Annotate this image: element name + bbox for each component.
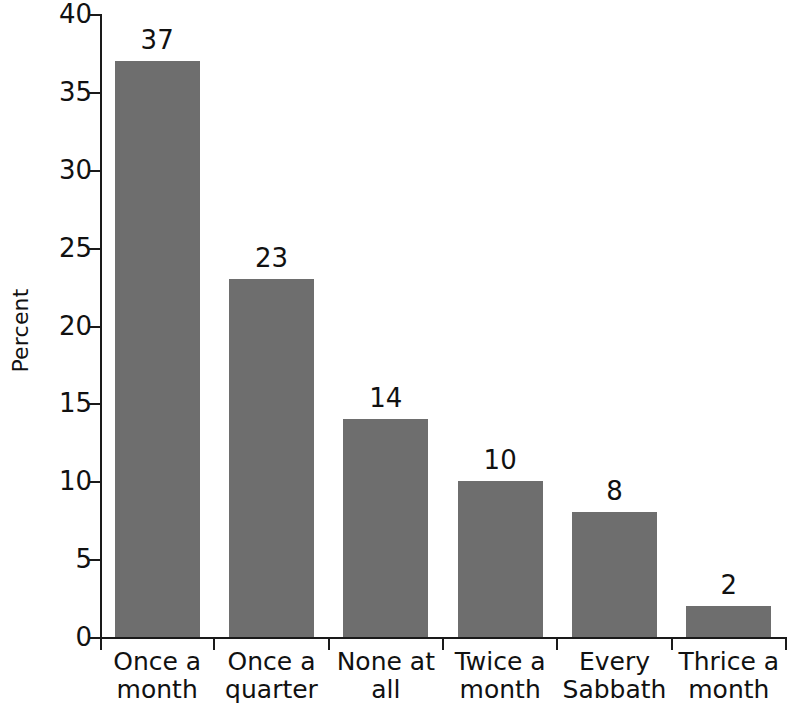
category-label-line: month (672, 676, 786, 704)
y-axis-tick-mark (88, 92, 100, 94)
category-label-line: Twice a (443, 648, 557, 676)
y-axis-tick-mark (88, 637, 100, 639)
y-axis-tick-label: 40 (40, 1, 92, 27)
bar[interactable] (343, 419, 428, 637)
y-axis-tick-mark (88, 170, 100, 172)
bar-value-label: 2 (672, 572, 786, 598)
category-label-line: quarter (214, 676, 328, 704)
x-axis-category-label: Once aquarter (214, 648, 328, 704)
category-label-line: month (100, 676, 214, 704)
category-label-line: Every (557, 648, 671, 676)
y-axis-tick-label: 10 (40, 468, 92, 494)
bar-value-label: 10 (443, 447, 557, 473)
y-axis-tick-labels: 0510152025303540 (38, 0, 92, 723)
bar-value-label: 23 (214, 245, 328, 271)
bar-value-label: 37 (100, 27, 214, 53)
bar[interactable] (115, 61, 200, 637)
x-axis-category-labels: Once amonthOnce aquarterNone atallTwice … (100, 648, 786, 723)
category-label-line: Once a (100, 648, 214, 676)
bar[interactable] (572, 512, 657, 637)
y-axis-tick-label: 5 (40, 546, 92, 572)
category-label-line: month (443, 676, 557, 704)
y-axis-tick-label: 30 (40, 157, 92, 183)
x-axis-category-label: EverySabbath (557, 648, 671, 704)
bar[interactable] (458, 481, 543, 637)
x-axis-category-label: None atall (329, 648, 443, 704)
bar-value-label: 8 (557, 478, 671, 504)
y-axis-tick-label: 20 (40, 313, 92, 339)
y-axis-tick-mark (88, 481, 100, 483)
y-axis-title-text: Percent (8, 288, 33, 372)
category-label-line: Once a (214, 648, 328, 676)
y-axis-tick-mark (88, 559, 100, 561)
bar[interactable] (686, 606, 771, 637)
y-axis-tick-mark (88, 14, 100, 16)
category-label-line: Sabbath (557, 676, 671, 704)
y-axis-title: Percent (0, 0, 40, 660)
category-label-line: None at (329, 648, 443, 676)
x-axis-category-label: Twice amonth (443, 648, 557, 704)
y-axis-tick-label: 0 (40, 624, 92, 650)
y-axis-tick-label: 35 (40, 79, 92, 105)
y-axis-tick-label: 25 (40, 235, 92, 261)
category-label-line: all (329, 676, 443, 704)
bar-value-label: 14 (329, 385, 443, 411)
bar[interactable] (229, 279, 314, 637)
y-axis-tick-mark (88, 403, 100, 405)
x-axis-category-label: Once amonth (100, 648, 214, 704)
category-label-line: Thrice a (672, 648, 786, 676)
plot-area: 3723141082 (100, 14, 786, 637)
bar-chart: Percent 0510152025303540 3723141082 Once… (0, 0, 796, 723)
y-axis-tick-mark (88, 326, 100, 328)
x-axis-category-label: Thrice amonth (672, 648, 786, 704)
y-axis-tick-label: 15 (40, 390, 92, 416)
y-axis-tick-mark (88, 248, 100, 250)
